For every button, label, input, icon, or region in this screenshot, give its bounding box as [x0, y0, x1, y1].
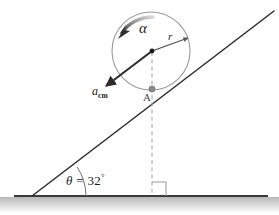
incline-angle-label: θ = 32° [66, 173, 105, 187]
radius-label: r [168, 31, 172, 42]
center-dot [150, 49, 155, 54]
right-angle-marker [152, 182, 166, 196]
angle-value: 32 [87, 173, 101, 188]
physics-diagram-figure: α r acm A θ = 32° [0, 0, 279, 215]
equals-sign: = [76, 173, 84, 188]
theta-symbol: θ [66, 173, 73, 188]
contact-point-label: A [143, 92, 151, 103]
incline-line [32, 11, 274, 196]
acceleration-cm-subscript: cm [98, 91, 108, 100]
angular-acceleration-label: α [139, 21, 147, 36]
ground-shading [0, 197, 279, 213]
degree-symbol: ° [101, 172, 105, 182]
acceleration-cm-label: acm [92, 85, 108, 100]
